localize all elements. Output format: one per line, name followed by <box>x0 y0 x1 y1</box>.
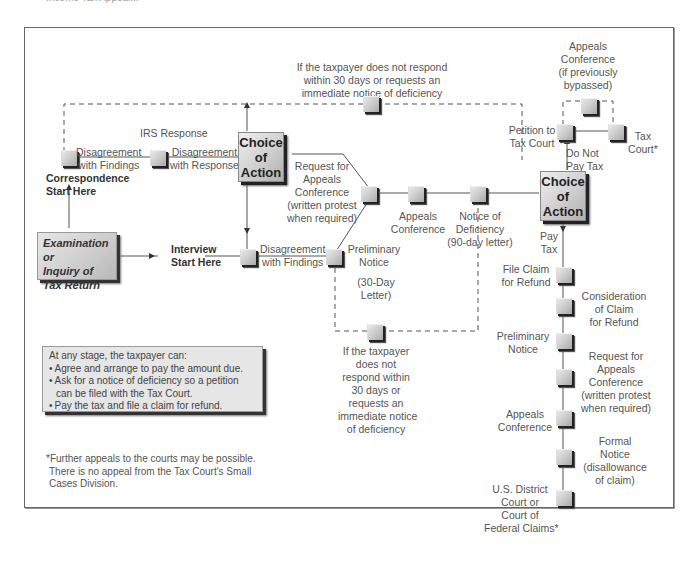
info-item: Agree and arrange to pay the amount due. <box>49 363 256 376</box>
node-formal-notice[interactable] <box>556 449 572 465</box>
appeals-conference-label: AppealsConference <box>390 210 446 236</box>
node-bottom-note[interactable] <box>367 324 383 340</box>
node-appeals-conference[interactable] <box>408 186 424 202</box>
appeals-conf-bypassed-label: AppealsConference(if previouslybypassed) <box>555 40 621 92</box>
info-item: Ask for a notice of deficiency so a peti… <box>49 375 256 400</box>
node-file-claim[interactable] <box>556 267 572 283</box>
node-tax-court[interactable] <box>608 124 624 140</box>
node-preliminary-notice[interactable] <box>326 249 342 265</box>
file-claim-label: File Claimfor Refund <box>494 263 558 289</box>
pay-tax-label: PayTax <box>537 230 561 256</box>
node-disagreement-response[interactable] <box>150 150 166 166</box>
formal-notice-label: FormalNotice(disallowanceof claim) <box>580 435 650 487</box>
corr-disagreement-response: Disagreementwith Response <box>170 146 239 172</box>
consideration-label: Considerationof Claimfor Refund <box>578 290 650 329</box>
preliminary-notice-label: PreliminaryNotice <box>344 243 404 269</box>
node-correspondence-disagreement[interactable] <box>61 150 77 166</box>
thirty-day-letter-label: (30-DayLetter) <box>354 276 398 302</box>
correspondence-start-label: CorrespondenceStart Here <box>46 172 129 198</box>
info-box: At any stage, the taxpayer can: Agree an… <box>42 346 263 412</box>
node-consideration[interactable] <box>556 298 572 314</box>
node-request-appeals[interactable] <box>361 186 377 202</box>
node-interview-disagreement[interactable] <box>240 249 256 265</box>
info-heading: At any stage, the taxpayer can: <box>49 350 256 363</box>
right-appeals-conference-label: AppealsConference <box>494 408 556 434</box>
choice-of-action-left[interactable]: ChoiceofAction <box>238 132 284 182</box>
do-not-pay-label: Do NotPay Tax <box>566 147 603 173</box>
bottom-note: If the taxpayerdoes notrespond within30 … <box>338 345 414 436</box>
corr-disagreement-findings: Disagreementwith Findings <box>76 146 141 172</box>
petition-tax-court-label: Petition toTax Court <box>504 124 560 150</box>
examination-box[interactable]: Examination orInquiry ofTax Return <box>37 232 117 280</box>
info-item: Pay the tax and file a claim for refund. <box>49 400 256 413</box>
node-right-request-appeals[interactable] <box>556 369 572 385</box>
interview-start-label: InterviewStart Here <box>171 243 221 269</box>
node-petition-tax-court[interactable] <box>557 124 573 140</box>
node-district-court[interactable] <box>556 490 572 506</box>
node-right-appeals-conference[interactable] <box>556 410 572 426</box>
irs-response-label: IRS Response <box>140 127 208 140</box>
right-preliminary-notice-label: PreliminaryNotice <box>490 330 556 356</box>
node-right-preliminary-notice[interactable] <box>556 333 572 349</box>
tax-court-label: TaxCourt* <box>626 130 660 156</box>
node-notice-of-deficiency[interactable] <box>470 186 486 202</box>
interview-disagreement-findings: Disagreementwith Findings <box>260 243 325 269</box>
district-court-label: U.S. DistrictCourt orCourt ofFederal Cla… <box>484 483 556 535</box>
request-appeals-label: Request forAppealsConference(written pro… <box>280 160 364 225</box>
right-request-appeals-label: Request forAppealsConference(written pro… <box>578 350 654 415</box>
node-appeals-conf-bypassed[interactable] <box>581 98 597 114</box>
choice-of-action-right[interactable]: ChoiceofAction <box>540 171 586 221</box>
footnote: *Further appeals to the courts may be po… <box>46 453 266 491</box>
node-top-note[interactable] <box>363 96 379 112</box>
notice-of-deficiency-label: Notice ofDeficiency(90-day letter) <box>444 210 516 249</box>
top-note: If the taxpayer does not respondwithin 3… <box>282 61 462 100</box>
